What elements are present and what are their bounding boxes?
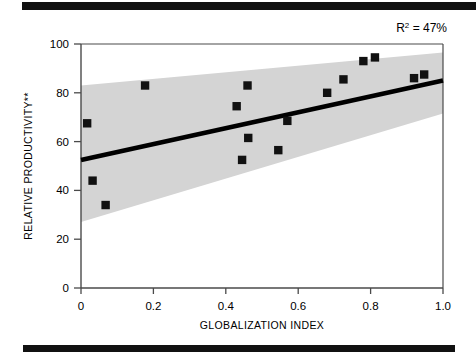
x-axis-tick-labels: 00.20.40.60.81.0 bbox=[78, 300, 451, 312]
data-point bbox=[371, 53, 379, 61]
y-tick-label: 60 bbox=[56, 136, 69, 148]
x-tick-label: 0.4 bbox=[218, 300, 235, 312]
x-tick-label: 0.6 bbox=[290, 300, 306, 312]
x-axis-title: GLOBALIZATION INDEX bbox=[200, 319, 324, 331]
r-squared-base: R bbox=[396, 21, 405, 35]
y-axis-tick-labels: 020406080100 bbox=[50, 38, 69, 294]
data-point bbox=[420, 70, 428, 78]
y-axis-title: RELATIVE PRODUCTIVITY** bbox=[22, 92, 34, 239]
x-tick-label: 0.2 bbox=[145, 300, 161, 312]
data-point bbox=[244, 134, 252, 142]
figure-container: 020406080100 00.20.40.60.81.0 GLOBALIZAT… bbox=[0, 0, 476, 356]
y-axis-ticks bbox=[74, 44, 81, 288]
data-point bbox=[359, 57, 367, 65]
y-tick-label: 20 bbox=[56, 233, 69, 245]
data-point bbox=[232, 102, 240, 110]
x-tick-label: 0.8 bbox=[363, 300, 379, 312]
data-point bbox=[283, 117, 291, 125]
data-point bbox=[101, 201, 109, 209]
data-point bbox=[141, 81, 149, 89]
y-tick-label: 100 bbox=[50, 38, 69, 50]
data-point bbox=[274, 146, 282, 154]
data-point bbox=[88, 176, 96, 184]
x-tick-label: 0 bbox=[78, 300, 84, 312]
data-point bbox=[83, 119, 91, 127]
data-point bbox=[410, 74, 418, 82]
x-axis-ticks bbox=[81, 288, 443, 294]
y-tick-label: 0 bbox=[63, 282, 69, 294]
scatter-plot: 020406080100 00.20.40.60.81.0 GLOBALIZAT… bbox=[0, 0, 476, 356]
y-tick-label: 40 bbox=[56, 184, 69, 196]
data-point bbox=[243, 81, 251, 89]
data-point bbox=[238, 156, 246, 164]
confidence-band bbox=[81, 53, 443, 223]
y-tick-label: 80 bbox=[56, 87, 69, 99]
data-point bbox=[323, 89, 331, 97]
r-squared-annotation: R2 = 47% bbox=[396, 21, 447, 35]
x-tick-label: 1.0 bbox=[435, 300, 451, 312]
r-squared-value: = 47% bbox=[409, 21, 447, 35]
data-point bbox=[339, 75, 347, 83]
